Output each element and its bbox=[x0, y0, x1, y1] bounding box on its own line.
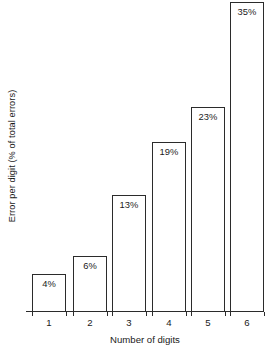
bar[interactable]: 19% bbox=[152, 142, 186, 312]
y-axis-title-text: Error per digit (% of total errors) bbox=[7, 90, 17, 223]
bar-value-label: 19% bbox=[153, 146, 185, 157]
bar[interactable]: 35% bbox=[230, 2, 264, 312]
x-axis-tick bbox=[112, 312, 113, 316]
x-axis-tick bbox=[73, 312, 74, 316]
x-axis-tick-label: 6 bbox=[230, 317, 264, 328]
bar[interactable]: 4% bbox=[32, 274, 66, 312]
x-axis-tick bbox=[225, 312, 226, 316]
x-axis-tick bbox=[191, 312, 192, 316]
bar-value-label: 6% bbox=[74, 260, 106, 271]
x-axis-tick bbox=[107, 312, 108, 316]
x-axis-tick-label: 2 bbox=[73, 317, 107, 328]
x-axis-title: Number of digits bbox=[26, 334, 264, 345]
plot-area: 4% 6% 13% 19% 23% 35% bbox=[26, 2, 264, 312]
bar[interactable]: 13% bbox=[112, 195, 146, 312]
x-axis-tick-label: 3 bbox=[112, 317, 146, 328]
x-axis-tick bbox=[66, 312, 67, 316]
x-axis-tick bbox=[146, 312, 147, 316]
x-axis-tick-label: 1 bbox=[32, 317, 66, 328]
x-axis-tick-labels: 1 2 3 4 5 6 bbox=[26, 317, 264, 331]
bar-value-label: 23% bbox=[192, 111, 224, 122]
bar-value-label: 35% bbox=[231, 6, 263, 17]
bar-value-label: 4% bbox=[33, 278, 65, 289]
x-axis-ticks bbox=[26, 312, 264, 316]
bar[interactable]: 6% bbox=[73, 256, 107, 312]
bar-chart-figure: Error per digit (% of total errors) 4% 6… bbox=[0, 0, 266, 352]
x-axis-tick bbox=[32, 312, 33, 316]
x-axis-tick-label: 5 bbox=[191, 317, 225, 328]
x-axis-tick bbox=[230, 312, 231, 316]
x-axis-tick bbox=[264, 312, 265, 316]
bar-value-label: 13% bbox=[113, 199, 145, 210]
x-axis-tick-label: 4 bbox=[152, 317, 186, 328]
bar[interactable]: 23% bbox=[191, 107, 225, 312]
x-axis-tick bbox=[152, 312, 153, 316]
x-axis-tick bbox=[186, 312, 187, 316]
y-axis-title: Error per digit (% of total errors) bbox=[0, 0, 24, 312]
